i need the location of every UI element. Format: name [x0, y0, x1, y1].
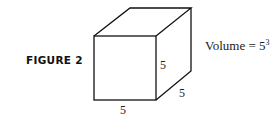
volume-formula: Volume = 53	[205, 38, 270, 54]
cube-front-face	[94, 36, 156, 100]
cube-top-face	[94, 8, 191, 36]
volume-exponent: 3	[266, 38, 270, 47]
volume-text: Volume = 5	[205, 38, 266, 53]
height-label: 5	[160, 58, 166, 72]
cube-diagram: 5 5 5	[0, 0, 276, 119]
width-label: 5	[120, 103, 126, 117]
depth-label: 5	[179, 86, 185, 100]
